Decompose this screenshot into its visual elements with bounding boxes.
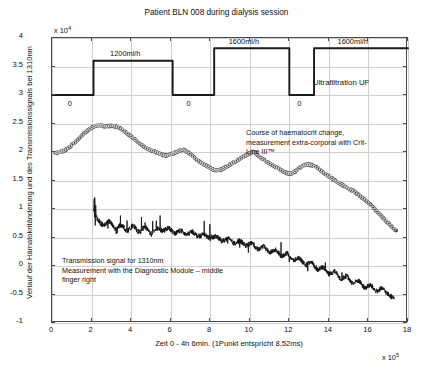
- uf-zero-label: 0: [297, 99, 301, 108]
- uf-zero-label: 0: [186, 99, 190, 108]
- y-axis-multiplier: x 104: [54, 25, 71, 36]
- x-tick-mark: [328, 318, 329, 322]
- x-axis-multiplier: x 105: [382, 352, 399, 363]
- y-tick-mark: [51, 123, 55, 124]
- y-tick-label: 4: [0, 32, 23, 41]
- x-tick-label: 2: [71, 326, 111, 335]
- x-tick-mark: [130, 37, 131, 41]
- x-tick-mark: [288, 318, 289, 322]
- annotation-line: Measurement with the Diagnostic Module –…: [62, 266, 277, 276]
- x-tick-label: 4: [110, 326, 150, 335]
- haematocrit-annotation: Course of haematocrit change,measurement…: [246, 128, 411, 157]
- x-tick-label: 18: [387, 326, 427, 335]
- x-tick-mark: [130, 318, 131, 322]
- x-tick-mark: [407, 37, 408, 41]
- y-tick-mark: [403, 66, 407, 67]
- y-tick-mark: [51, 294, 55, 295]
- x-tick-mark: [91, 318, 92, 322]
- x-tick-label: 10: [229, 326, 269, 335]
- x-tick-mark: [209, 37, 210, 41]
- y-axis-label: Verlauf der Hämatokritänderung und des T…: [26, 22, 35, 322]
- y-tick-label: 0.5: [0, 232, 23, 241]
- ultrafiltration-label: Ultrafiltration UF: [313, 78, 369, 88]
- y-tick-mark: [51, 265, 55, 266]
- x-tick-mark: [328, 37, 329, 41]
- uf-rate-label: 1200ml/h: [110, 49, 140, 58]
- y-multiplier-exponent: 4: [68, 25, 71, 31]
- y-tick-mark: [403, 322, 407, 323]
- y-tick-mark: [51, 237, 55, 238]
- y-tick-mark: [403, 94, 407, 95]
- grid-line-horizontal: [52, 323, 406, 324]
- uf-zero-label: 0: [68, 99, 72, 108]
- grid-line-vertical: [408, 38, 409, 321]
- x-tick-mark: [170, 318, 171, 322]
- x-tick-mark: [51, 37, 52, 41]
- y-tick-label: 0: [0, 260, 23, 269]
- chart-title: Patient BLN 008 during dialysis session: [0, 8, 433, 18]
- y-tick-label: 3.5: [0, 61, 23, 70]
- x-tick-mark: [407, 318, 408, 322]
- annotation-line: Transmission signal for 1310nm: [62, 256, 277, 266]
- y-multiplier-base: x 10: [54, 26, 68, 35]
- x-tick-mark: [288, 37, 289, 41]
- y-tick-mark: [403, 237, 407, 238]
- y-tick-label: -1: [0, 317, 23, 326]
- annotation-line: finger right: [62, 275, 277, 285]
- x-multiplier-exponent: 5: [396, 352, 399, 358]
- y-tick-mark: [403, 123, 407, 124]
- x-tick-mark: [91, 37, 92, 41]
- x-tick-label: 0: [31, 326, 71, 335]
- y-tick-mark: [51, 66, 55, 67]
- y-tick-mark: [51, 94, 55, 95]
- y-tick-mark: [51, 180, 55, 181]
- x-tick-label: 6: [150, 326, 190, 335]
- transmission-annotation: Transmission signal for 1310nmMeasuremen…: [62, 256, 277, 285]
- y-tick-mark: [403, 180, 407, 181]
- x-axis-label: Zeit 0 - 4h 6min. (1Punkt entspricht 8,5…: [51, 340, 407, 349]
- x-tick-label: 8: [189, 326, 229, 335]
- annotation-line: Course of haematocrit change,: [246, 128, 411, 138]
- x-tick-label: 14: [308, 326, 348, 335]
- annotation-line: measurement extra-corporal with Crit-: [246, 138, 411, 148]
- y-tick-mark: [51, 322, 55, 323]
- x-tick-mark: [249, 318, 250, 322]
- y-tick-mark: [403, 265, 407, 266]
- y-tick-label: 2: [0, 146, 23, 155]
- y-tick-label: 1.5: [0, 175, 23, 184]
- uf-rate-label: 1600ml/h: [229, 37, 259, 46]
- y-tick-mark: [403, 208, 407, 209]
- y-tick-label: 2.5: [0, 118, 23, 127]
- y-tick-mark: [51, 151, 55, 152]
- x-tick-mark: [209, 318, 210, 322]
- x-tick-mark: [367, 318, 368, 322]
- x-tick-label: 16: [347, 326, 387, 335]
- x-tick-mark: [51, 318, 52, 322]
- x-multiplier-base: x 10: [382, 353, 396, 362]
- y-tick-label: -0.5: [0, 289, 23, 298]
- annotation-line: Line III™: [246, 147, 411, 157]
- y-tick-label: 1: [0, 203, 23, 212]
- y-tick-mark: [51, 208, 55, 209]
- chart-figure: Patient BLN 008 during dialysis session …: [0, 0, 433, 370]
- x-tick-mark: [170, 37, 171, 41]
- x-tick-label: 12: [268, 326, 308, 335]
- y-tick-label: 3: [0, 89, 23, 98]
- uf-rate-label: 1600ml/h: [338, 37, 368, 46]
- y-tick-mark: [403, 294, 407, 295]
